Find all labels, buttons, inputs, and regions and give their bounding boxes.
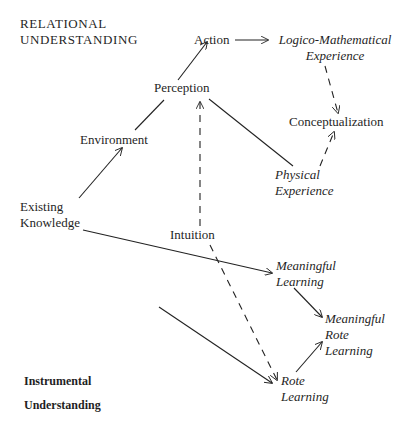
node-meaningful-rote-learning: Meaningful Rote Learning: [325, 311, 385, 359]
node-logico-line2: Experience: [271, 48, 399, 64]
node-action: Action: [194, 32, 229, 48]
node-meaningful-rote-line1: Meaningful: [325, 311, 385, 327]
edge-meaningful-to-meaningful-rote: [294, 288, 322, 317]
edge-physical-to-conceptualization: [320, 132, 334, 166]
node-meaningful-learning: Meaningful Learning: [276, 258, 336, 290]
node-meaningful-learning-line2: Learning: [276, 274, 336, 290]
node-logico-mathematical-experience: Logico-Mathematical Experience: [271, 32, 399, 64]
node-meaningful-learning-line1: Meaningful: [276, 258, 336, 274]
node-rote-learning: Rote Learning: [281, 373, 329, 405]
edge-logico-to-conceptualization: [325, 66, 338, 113]
node-existing-line1: Existing: [20, 199, 80, 215]
edge-rote-to-meaningful-rote: [296, 342, 322, 372]
node-existing-knowledge: Existing Knowledge: [20, 199, 80, 231]
edge-instrumental-to-rote: [159, 307, 272, 383]
heading-instrumental: Instrumental Understanding: [24, 369, 101, 417]
node-intuition: Intuition: [170, 227, 215, 243]
node-physical-line2: Experience: [275, 183, 333, 199]
heading-relational: RELATIONAL UNDERSTANDING: [20, 16, 138, 48]
node-rote-line2: Learning: [281, 389, 329, 405]
node-environment: Environment: [80, 132, 148, 148]
node-logico-line1: Logico-Mathematical: [271, 32, 399, 48]
heading-instrumental-line2: Understanding: [24, 393, 101, 417]
node-physical-experience: Physical Experience: [275, 167, 333, 199]
node-rote-line1: Rote: [281, 373, 329, 389]
edge-environment-to-perception: [135, 100, 164, 130]
edge-existing-to-environment: [79, 148, 122, 198]
node-perception: Perception: [154, 80, 210, 96]
node-meaningful-rote-line2: Rote: [325, 327, 385, 343]
edge-intuition-to-rote: [210, 245, 277, 380]
node-physical-line1: Physical: [275, 167, 333, 183]
heading-relational-line2: UNDERSTANDING: [20, 32, 138, 48]
node-existing-line2: Knowledge: [20, 215, 80, 231]
heading-relational-line1: RELATIONAL: [20, 16, 138, 32]
heading-instrumental-line1: Instrumental: [24, 369, 101, 393]
learning-diagram: RELATIONAL UNDERSTANDING Instrumental Un…: [0, 0, 408, 423]
edge-perception-to-physical: [209, 99, 293, 166]
node-conceptualization: Conceptualization: [289, 114, 384, 130]
node-meaningful-rote-line3: Learning: [325, 343, 385, 359]
